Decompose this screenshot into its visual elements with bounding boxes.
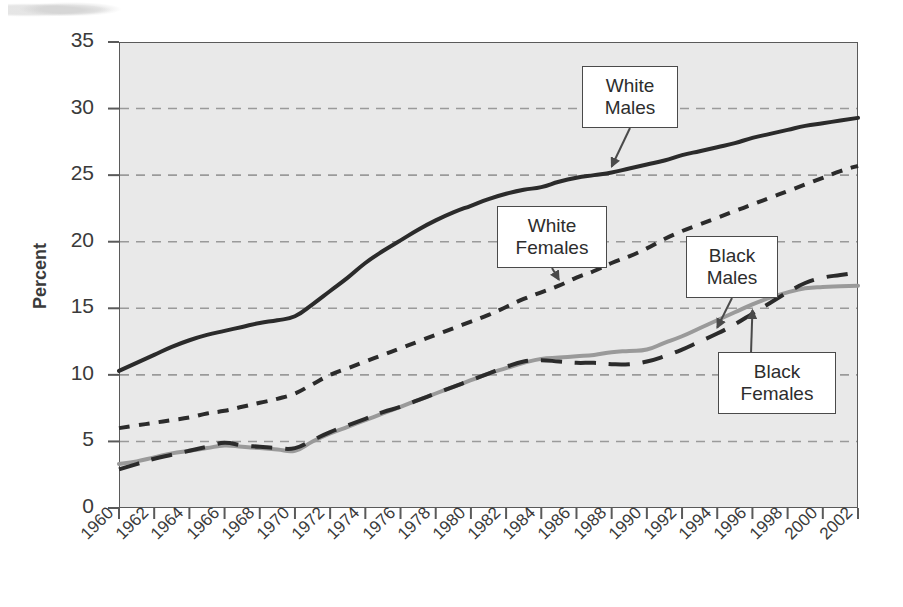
y-tick-label: 15 (50, 294, 94, 318)
y-tick-label: 0 (50, 494, 94, 518)
callout-white-males: WhiteMales (582, 66, 678, 128)
callout-label-line1: Black (709, 245, 755, 267)
y-tick-label: 5 (50, 427, 94, 451)
y-tick-label: 10 (50, 361, 94, 385)
callout-black-females: BlackFemales (718, 352, 836, 414)
callout-white-females: WhiteFemales (497, 206, 607, 268)
callout-label-line2: Males (605, 97, 656, 119)
callout-label-line1: Black (754, 361, 800, 383)
callout-black-males: BlackMales (686, 236, 778, 298)
callout-label-line2: Males (707, 267, 758, 289)
callout-arrow-white-males (612, 128, 630, 166)
callout-arrow-black-females (751, 310, 752, 352)
callout-label-line1: White (606, 75, 655, 97)
y-tick-label: 30 (50, 95, 94, 119)
y-axis-ticks (108, 42, 119, 508)
callout-label-line1: White (528, 215, 577, 237)
y-tick-label: 35 (50, 28, 94, 52)
callout-label-line2: Females (741, 383, 814, 405)
y-axis-title: Percent (30, 243, 51, 309)
y-tick-label: 20 (50, 228, 94, 252)
chart-figure: 05101520253035 1960196219641966196819701… (0, 0, 903, 607)
y-tick-label: 25 (50, 161, 94, 185)
callout-arrow-white-females (552, 268, 559, 280)
callout-label-line2: Females (516, 237, 589, 259)
